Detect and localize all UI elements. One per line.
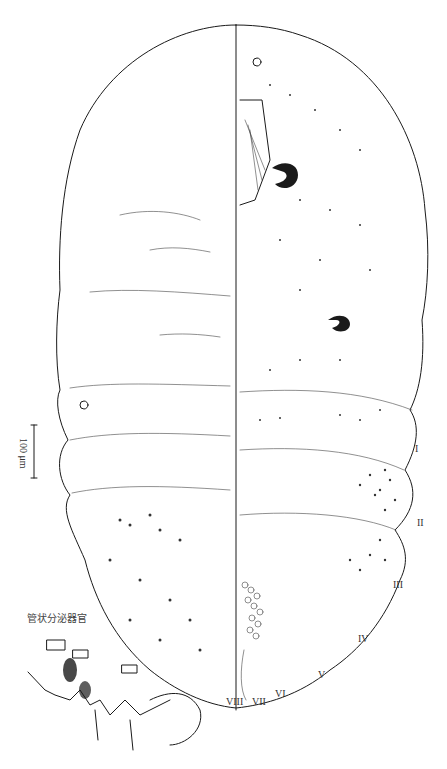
spiracle-posterior bbox=[328, 316, 350, 332]
segment-line bbox=[240, 513, 396, 530]
segment-label-VIII: VIII bbox=[226, 696, 243, 707]
spiracle-anterior bbox=[272, 163, 298, 188]
segment-line bbox=[70, 384, 230, 388]
segment-label-IV: IV bbox=[358, 633, 369, 644]
body-outline bbox=[57, 25, 428, 708]
segment-label-III: III bbox=[393, 579, 403, 590]
segment-line bbox=[150, 248, 210, 252]
segment-label-VI: VI bbox=[275, 688, 286, 699]
antenna-base bbox=[253, 58, 261, 66]
tubular-duct-inset: 管状分泌器官 bbox=[27, 612, 201, 750]
segment-line bbox=[120, 211, 200, 220]
segment-line bbox=[240, 449, 404, 470]
insect-illustration: 100 μm 管状分泌器官 I II III IV V VI VII VIII bbox=[0, 0, 447, 769]
inset-caption: 管状分泌器官 bbox=[27, 612, 87, 624]
segment-label-VII: VII bbox=[252, 696, 266, 707]
segment-label-II: II bbox=[417, 517, 424, 528]
segment-line bbox=[70, 433, 230, 440]
pore-cluster bbox=[242, 582, 263, 639]
scale-bar: 100 μm bbox=[18, 425, 37, 478]
setae bbox=[109, 84, 397, 652]
segment-line bbox=[160, 334, 220, 337]
segment-label-I: I bbox=[415, 443, 418, 454]
anal-ring bbox=[241, 650, 246, 700]
pore bbox=[80, 401, 88, 409]
segment-label-V: V bbox=[318, 669, 326, 680]
segment-line bbox=[90, 290, 230, 296]
segment-line bbox=[72, 487, 230, 493]
scale-bar-label: 100 μm bbox=[18, 438, 29, 469]
segment-line bbox=[240, 390, 412, 410]
